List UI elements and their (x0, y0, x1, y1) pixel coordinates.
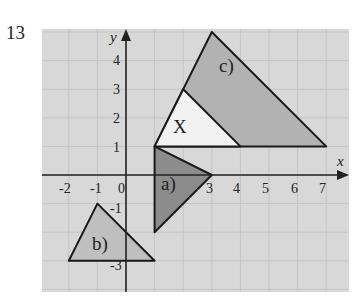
shape-label-x: X (173, 116, 187, 137)
x-tick: -2 (59, 181, 71, 196)
y-tick: 3 (113, 82, 120, 97)
shape-label-b: b) (92, 233, 108, 255)
x-tick: 7 (319, 181, 326, 196)
x-tick: 0 (118, 181, 125, 196)
x-axis-label: x (336, 153, 344, 169)
x-tick: -1 (90, 181, 102, 196)
y-tick: 2 (113, 111, 120, 126)
coordinate-grid-diagram: x y -2 -1 0 3 4 5 6 7 4 3 2 1 -1 -3 c) X… (0, 0, 357, 303)
y-tick: 4 (113, 53, 120, 68)
x-tick: 6 (291, 181, 298, 196)
y-tick: -1 (110, 201, 122, 216)
shape-label-c: c) (219, 55, 234, 77)
x-tick: 4 (233, 181, 240, 196)
y-tick: -3 (110, 258, 122, 273)
x-tick: 5 (262, 181, 269, 196)
y-tick: 1 (113, 140, 120, 155)
shape-label-a: a) (161, 173, 176, 195)
y-axis-label: y (108, 29, 117, 45)
x-tick: 3 (206, 181, 213, 196)
